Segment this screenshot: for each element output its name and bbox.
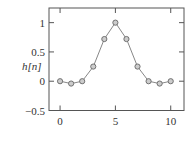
data-point-marker	[102, 36, 107, 41]
chart: 0510−0.500.51 h[n]	[0, 0, 193, 141]
data-point-marker	[157, 81, 162, 86]
y-tick-label: 0.5	[31, 46, 45, 58]
data-markers	[57, 20, 173, 86]
data-point-marker	[69, 81, 74, 86]
y-axis-label: h[n]	[22, 60, 42, 72]
y-tick-label: −0.5	[25, 105, 45, 117]
y-tick-label: 1	[40, 17, 46, 29]
y-tick-label: 0	[40, 75, 46, 87]
data-point-marker	[124, 36, 129, 41]
data-point-marker	[113, 20, 118, 25]
data-point-marker	[168, 79, 173, 84]
data-point-marker	[135, 64, 140, 69]
x-tick-label: 10	[165, 115, 177, 127]
x-tick-label: 5	[113, 115, 119, 127]
data-point-marker	[80, 79, 85, 84]
x-tick-label: 0	[57, 115, 63, 127]
data-line	[60, 23, 171, 84]
data-point-marker	[91, 64, 96, 69]
data-point-marker	[57, 79, 62, 84]
data-point-marker	[146, 79, 151, 84]
